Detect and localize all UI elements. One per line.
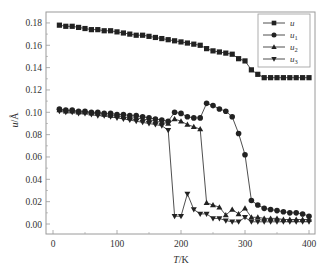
y-tick-label: 0.06 xyxy=(25,152,42,162)
y-tick-label: 0.14 xyxy=(25,63,42,73)
y-tick-label: 0.04 xyxy=(25,175,42,185)
y-tick-label: 0.00 xyxy=(25,220,42,230)
series-u3 xyxy=(56,109,312,225)
x-axis-title: T/K xyxy=(173,254,189,265)
x-tick-label: 0 xyxy=(51,239,56,249)
y-tick-label: 0.02 xyxy=(25,197,42,207)
y-axis-title: u/Å xyxy=(9,112,20,128)
y-tick-label: 0.18 xyxy=(25,18,42,28)
x-tick-label: 400 xyxy=(302,239,317,249)
y-tick-label: 0.12 xyxy=(25,85,42,95)
y-tick-label: 0.08 xyxy=(25,130,42,140)
x-tick-label: 200 xyxy=(174,239,189,249)
x-axis: 0100200300400 xyxy=(51,230,317,249)
line-chart: 0.000.020.040.060.080.100.120.140.160.18… xyxy=(0,0,326,272)
y-tick-label: 0.10 xyxy=(25,108,42,118)
x-tick-label: 100 xyxy=(110,239,125,249)
series-u1 xyxy=(57,101,312,219)
y-tick-label: 0.16 xyxy=(25,41,42,51)
x-tick-label: 300 xyxy=(238,239,253,249)
svg-text:u: u xyxy=(290,18,295,28)
legend: uu1u2u3 xyxy=(258,14,310,67)
